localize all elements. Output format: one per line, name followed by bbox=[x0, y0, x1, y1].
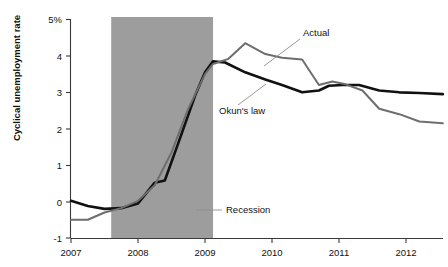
y-tick-label-3: 3 bbox=[57, 87, 62, 98]
y-tick-label-5: 5% bbox=[48, 14, 62, 25]
y-tick-label-1: 1 bbox=[57, 160, 62, 171]
x-tick-label-2007: 2007 bbox=[60, 247, 81, 258]
actual-label: Actual bbox=[303, 27, 329, 38]
x-tick-label-2011: 2011 bbox=[329, 247, 349, 258]
y-ticks bbox=[66, 20, 71, 239]
x-tick-label-2010: 2010 bbox=[261, 247, 282, 258]
y-tick-label-4: 4 bbox=[57, 51, 62, 62]
x-tick-label-2008: 2008 bbox=[127, 247, 148, 258]
y-axis-title: Cyclical unemployment rate bbox=[11, 15, 22, 141]
y-tick-label-2: 2 bbox=[57, 124, 62, 135]
chart-figure: 5% 4 3 2 1 0 -1 2007 2008 2009 2010 2011… bbox=[0, 0, 448, 267]
x-tick-label-2009: 2009 bbox=[194, 247, 215, 258]
chart-canvas: 5% 4 3 2 1 0 -1 2007 2008 2009 2010 2011… bbox=[0, 0, 448, 267]
recession-label: Recession bbox=[226, 204, 270, 215]
okun-law-label: Okun's law bbox=[219, 105, 265, 116]
okun-leader-line bbox=[238, 84, 266, 105]
actual-leader-line bbox=[264, 39, 300, 66]
y-tick-labels: 5% 4 3 2 1 0 -1 bbox=[48, 14, 62, 244]
y-tick-label-0: 0 bbox=[57, 197, 62, 208]
x-tick-label-2012: 2012 bbox=[395, 247, 416, 258]
y-tick-label-neg1: -1 bbox=[54, 233, 62, 244]
x-ticks bbox=[71, 239, 406, 244]
x-tick-labels: 2007 2008 2009 2010 2011 2012 bbox=[60, 247, 416, 258]
